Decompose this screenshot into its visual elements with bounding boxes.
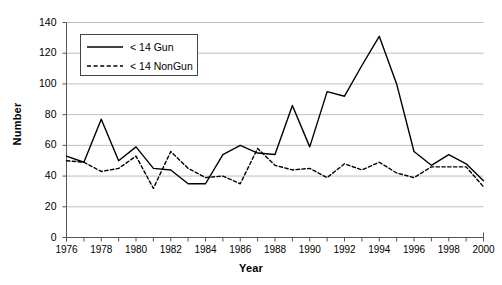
- legend-label-nongun: < 14 NonGun: [130, 60, 193, 72]
- legend-dashed-line-icon: [85, 61, 125, 71]
- y-axis-tick-label: 60: [19, 138, 57, 150]
- plot-area: [0, 0, 502, 285]
- line-chart: Number Year < 14 Gun < 14 NonGun 0204060…: [0, 0, 502, 285]
- y-axis-tick-label: 140: [19, 16, 57, 28]
- legend-label-gun: < 14 Gun: [130, 41, 174, 53]
- y-axis-tick-label: 100: [19, 77, 57, 89]
- y-axis-tick-label: 0: [19, 231, 57, 243]
- y-axis-tick-label: 20: [19, 200, 57, 212]
- legend-item-nongun: < 14 NonGun: [85, 56, 193, 75]
- x-axis-title: Year: [0, 262, 502, 274]
- y-axis-tick-label: 120: [19, 46, 57, 58]
- x-axis-tick-label: 2000: [464, 244, 502, 255]
- legend-item-gun: < 14 Gun: [85, 37, 193, 56]
- legend: < 14 Gun < 14 NonGun: [80, 34, 198, 76]
- y-axis-tick-label: 80: [19, 108, 57, 120]
- y-axis-tick-label: 40: [19, 169, 57, 181]
- legend-solid-line-icon: [85, 42, 125, 52]
